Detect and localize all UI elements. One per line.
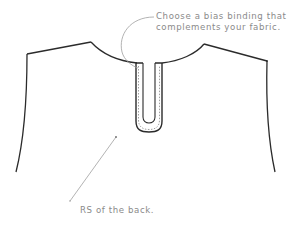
bias-bound-slit xyxy=(136,63,162,132)
annotation-line: Choose a bias binding that xyxy=(156,11,287,22)
bias-binding-leader-line xyxy=(121,17,154,68)
garment-back-diagram xyxy=(0,0,298,227)
rs-back-annotation: RS of the back. xyxy=(80,205,154,216)
right-neckline xyxy=(162,44,204,63)
rs-back-leader-line xyxy=(70,137,116,201)
bias-binding-annotation: Choose a bias binding that complements y… xyxy=(156,11,287,33)
left-side-seam xyxy=(16,54,27,172)
annotation-line: complements your fabric. xyxy=(156,22,287,33)
right-shoulder-seam xyxy=(204,44,267,61)
left-neckline xyxy=(91,42,137,63)
annotation-line: RS of the back. xyxy=(80,205,154,216)
right-side-seam xyxy=(267,61,275,172)
left-shoulder-seam xyxy=(27,42,91,54)
